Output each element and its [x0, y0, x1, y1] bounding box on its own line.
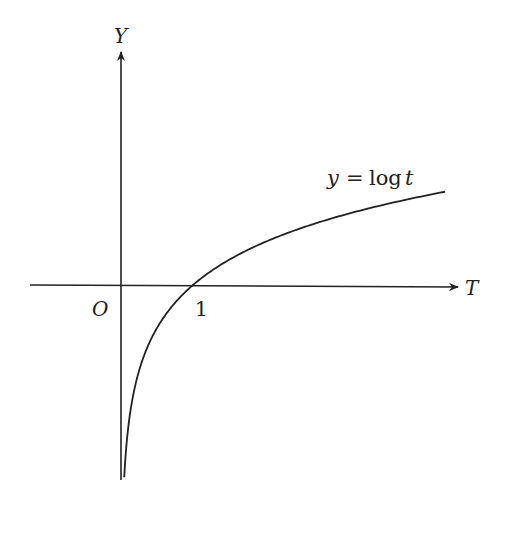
x-axis-label: T — [465, 276, 480, 300]
x-axis — [30, 285, 458, 287]
curve-label-eq: = — [346, 166, 364, 190]
y-axis-label: Y — [114, 24, 129, 48]
curve-label-lhs: y — [326, 166, 340, 190]
curve-label-var: t — [405, 166, 414, 190]
origin-label: O — [92, 297, 108, 321]
curve-label: y = log t — [326, 166, 414, 190]
log-curve — [124, 192, 445, 478]
tick-label-1: 1 — [195, 297, 208, 321]
log-function-diagram: Y T O 1 y = log t — [0, 0, 505, 535]
curve-label-fn: log — [369, 166, 402, 190]
